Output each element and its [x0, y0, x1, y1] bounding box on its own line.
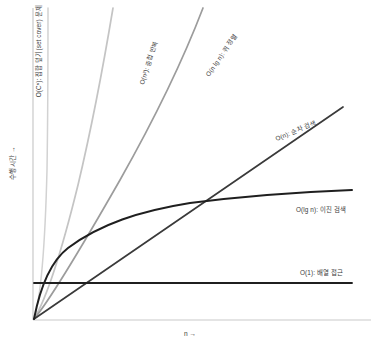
y-axis-label: 수행 시간 →	[10, 133, 17, 193]
curve-linearithmic	[34, 8, 203, 319]
curve-label-exponential: O(Cⁿ): 집합 덮기(set cover) 문제	[36, 5, 42, 125]
curve-label-logarithmic: O(lg n): 이진 검색	[296, 207, 346, 213]
chart-canvas	[0, 0, 383, 355]
x-axis-label: n →	[184, 331, 196, 338]
curve-label-constant: O(1): 배열 접근	[300, 270, 343, 276]
big-o-growth-chart: 수행 시간 → n → O(Cⁿ): 집합 덮기(set cover) 문제 O…	[0, 0, 383, 355]
